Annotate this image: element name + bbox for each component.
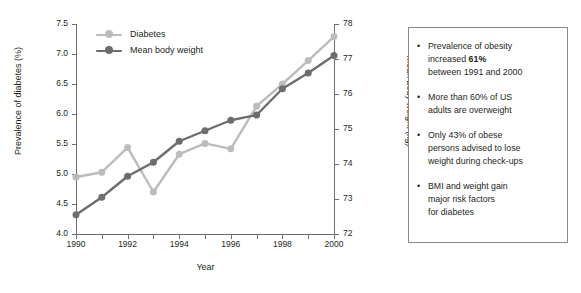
fact-line: major risk factors [428,193,508,206]
legend-label: Mean body weight [130,45,203,55]
series-data-point [98,194,105,201]
series-data-point [305,70,312,77]
legend-label: Diabetes [130,29,166,39]
series-data-point [124,173,131,180]
fact-line: weight during check-ups [428,155,523,168]
bullet-icon: • [417,40,428,79]
fact-item: •Prevalence of obesityincreased 61%betwe… [417,40,557,79]
fact-text: BMI and weight gainmajor risk factorsfor… [428,180,508,219]
fact-line: increased 61% [428,53,522,66]
fact-text: More than 60% of USadults are overweight [428,91,512,117]
fact-line: Only 43% of obese [428,129,523,142]
legend-marker-icon [96,45,122,56]
facts-panel: •Prevalence of obesityincreased 61%betwe… [408,27,568,243]
bullet-icon: • [417,129,428,168]
fact-line: BMI and weight gain [428,180,508,193]
fact-emphasis: 61% [469,54,487,64]
series-data-point [331,33,338,40]
fact-text: Only 43% of obesepersons advised to lose… [428,129,523,168]
bullet-icon: • [417,180,428,219]
series-data-point [150,159,157,166]
legend-item: Diabetes [96,26,203,42]
series-line [76,37,334,192]
chart-page: 4.04.55.05.56.06.57.07.5 72737475767778 … [0,0,581,293]
dual-axis-line-chart: 4.04.55.05.56.06.57.07.5 72737475767778 … [0,0,392,293]
fact-text: Prevalence of obesityincreased 61%betwee… [428,40,522,79]
series-line [76,56,334,215]
series-data-point [73,211,80,218]
series-data-point [176,151,183,158]
series-data-point [279,85,286,92]
fact-line: persons advised to lose [428,142,523,155]
fact-line: adults are overweight [428,104,512,117]
bullet-icon: • [417,91,428,117]
series-data-point [73,174,80,181]
fact-line: More than 60% of US [428,91,512,104]
series-data-point [253,112,260,119]
series-data-point [176,138,183,145]
series-data-point [227,145,234,152]
series-data-point [202,140,209,147]
fact-item: •Only 43% of obesepersons advised to los… [417,129,557,168]
chart-legend: DiabetesMean body weight [96,26,203,58]
fact-item: •BMI and weight gainmajor risk factorsfo… [417,180,557,219]
fact-line: for diabetes [428,206,508,219]
series-data-point [202,127,209,134]
legend-item: Mean body weight [96,42,203,58]
fact-line: Prevalence of obesity [428,40,522,53]
fact-line: between 1991 and 2000 [428,66,522,79]
fact-item: •More than 60% of USadults are overweigh… [417,91,557,117]
series-data-point [305,57,312,64]
series-data-point [253,103,260,110]
series-data-point [98,169,105,176]
series-data-point [124,144,131,151]
series-data-point [227,117,234,124]
series-data-point [150,189,157,196]
legend-marker-icon [96,29,122,40]
series-data-point [331,52,338,59]
